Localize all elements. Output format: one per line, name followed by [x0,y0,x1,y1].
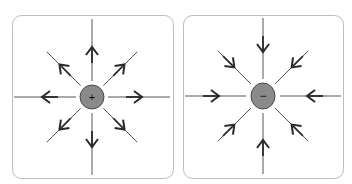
positive-charge-panel: + [13,16,174,179]
negative-charge-panel: − [184,16,344,179]
charge-sign-plus: + [89,91,95,103]
field-lines-diagram: + − [0,0,352,184]
charge-sign-minus: − [259,89,266,103]
